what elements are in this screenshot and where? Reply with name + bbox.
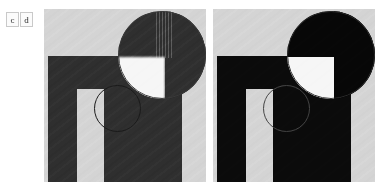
inset-border-ring <box>118 11 206 99</box>
arch-leg-left <box>217 56 246 182</box>
image-panel-c <box>44 9 206 182</box>
panel-label-d: d <box>20 12 33 27</box>
panel-label-row: c d <box>6 12 33 27</box>
arch-leg-left <box>48 56 77 182</box>
image-panel-d <box>213 9 375 182</box>
inset-border-ring <box>287 11 375 99</box>
magnified-inset-d <box>287 11 375 99</box>
panel-label-c: c <box>6 12 19 27</box>
magnified-inset-c <box>118 11 206 99</box>
